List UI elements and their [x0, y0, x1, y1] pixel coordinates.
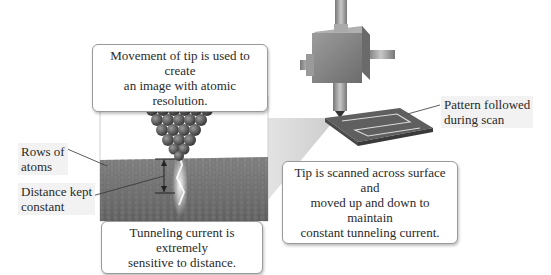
callout-tunneling-line2: sensitive to distance.: [108, 255, 256, 270]
callout-movement-line1: Movement of tip is used to create: [99, 48, 261, 78]
label-distance: Distance kept constant: [18, 183, 95, 215]
label-distance-line1: Distance kept: [21, 184, 92, 199]
label-distance-line2: constant: [21, 199, 92, 214]
callout-scanned-line3: constant tunneling current.: [289, 225, 451, 240]
callout-tunneling-line1: Tunneling current is extremely: [108, 225, 256, 255]
label-pattern: Pattern followed during scan: [441, 96, 533, 128]
label-pattern-line1: Pattern followed: [444, 97, 530, 112]
inset-image: [100, 94, 268, 221]
label-rows-of-atoms: Rows of atoms: [18, 143, 68, 175]
callout-scanned-line1: Tip is scanned across surface and: [289, 165, 451, 195]
callout-movement: Movement of tip is used to create an ima…: [92, 44, 268, 112]
label-pattern-line2: during scan: [444, 112, 530, 127]
callout-tunneling: Tunneling current is extremely sensitive…: [101, 221, 263, 274]
callout-scanned-line2: moved up and down to maintain: [289, 195, 451, 225]
callout-scanned: Tip is scanned across surface and moved …: [282, 161, 458, 244]
label-rows-line2: atoms: [21, 159, 65, 174]
stm-diagram-graphics: [0, 0, 551, 275]
callout-movement-line2: an image with atomic resolution.: [99, 78, 261, 108]
label-rows-line1: Rows of: [21, 144, 65, 159]
